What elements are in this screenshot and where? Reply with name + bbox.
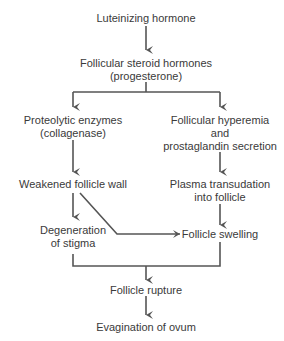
node-text: Degeneration — [40, 224, 106, 237]
node-text: Plasma transudation — [170, 178, 270, 191]
node-text: and — [163, 127, 277, 140]
node-text: Follicle swelling — [182, 228, 258, 241]
node-evagination-of-ovum: Evagination of ovum — [96, 321, 196, 334]
node-proteolytic-enzymes: Proteolytic enzymes (collagenase) — [24, 114, 122, 140]
node-text: Follicular steroid hormones — [80, 57, 212, 70]
node-text: Proteolytic enzymes — [24, 114, 122, 127]
node-text: into follicle — [170, 191, 270, 204]
node-text: Follicular hyperemia — [163, 114, 277, 127]
node-text: Evagination of ovum — [96, 321, 196, 334]
node-follicle-rupture: Follicle rupture — [110, 284, 182, 297]
node-text: (collagenase) — [24, 127, 122, 140]
node-text: (progesterone) — [80, 70, 212, 83]
node-text: of stigma — [40, 237, 106, 250]
node-follicular-hyperemia: Follicular hyperemia and prostaglandin s… — [163, 114, 277, 153]
node-luteinizing-hormone: Luteinizing hormone — [96, 12, 195, 25]
node-text: Follicle rupture — [110, 284, 182, 297]
node-text: Weakened follicle wall — [19, 178, 127, 191]
node-degeneration-of-stigma: Degeneration of stigma — [40, 224, 106, 250]
node-follicular-steroid-hormones: Follicular steroid hormones (progesteron… — [80, 57, 212, 83]
node-follicle-swelling: Follicle swelling — [182, 228, 258, 241]
node-text: prostaglandin secretion — [163, 140, 277, 153]
node-plasma-transudation: Plasma transudation into follicle — [170, 178, 270, 204]
node-weakened-follicle-wall: Weakened follicle wall — [19, 178, 127, 191]
node-text: Luteinizing hormone — [96, 12, 195, 25]
